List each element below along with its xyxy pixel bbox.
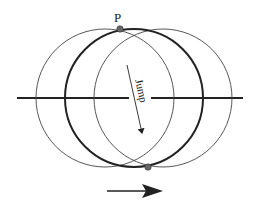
point-p	[117, 26, 123, 32]
point-p-label: P	[114, 10, 121, 25]
point-bottom	[145, 164, 151, 170]
diagram-canvas: P Jump	[0, 0, 255, 210]
jump-label: Jump	[133, 78, 150, 104]
